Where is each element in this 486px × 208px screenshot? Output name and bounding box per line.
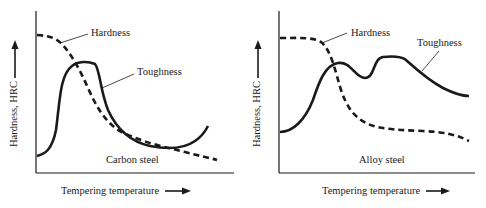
panel-title: Alloy steel (359, 155, 405, 166)
hardness-leader (60, 34, 88, 43)
y-axis-label: Hardness, HRC (252, 81, 263, 147)
hardness-label: Hardness (351, 28, 390, 39)
toughness-leader (422, 51, 439, 71)
carbon-steel-panel: Hardness Toughness Carbon steel Temperin… (0, 0, 243, 208)
toughness-label: Toughness (417, 38, 462, 49)
x-arrow-head-icon (441, 188, 450, 195)
hardness-curve (37, 35, 217, 160)
hardness-label: Hardness (91, 28, 130, 39)
toughness-leader (102, 74, 134, 88)
hardness-leader (322, 33, 347, 43)
y-arrow-head-icon (255, 40, 262, 49)
toughness-curve (37, 62, 208, 156)
hardness-curve (280, 38, 469, 141)
toughness-curve (280, 56, 469, 132)
x-axis-label: Tempering temperature (61, 186, 159, 197)
x-arrow-head-icon (182, 188, 191, 195)
toughness-label: Toughness (137, 67, 182, 78)
panel-title: Carbon steel (106, 155, 159, 166)
x-axis-label: Tempering temperature (322, 186, 420, 197)
y-arrow-head-icon (12, 40, 19, 49)
y-axis-label: Hardness, HRC (9, 81, 20, 147)
alloy-steel-panel: Hardness Toughness Alloy steel Tempering… (243, 0, 486, 208)
